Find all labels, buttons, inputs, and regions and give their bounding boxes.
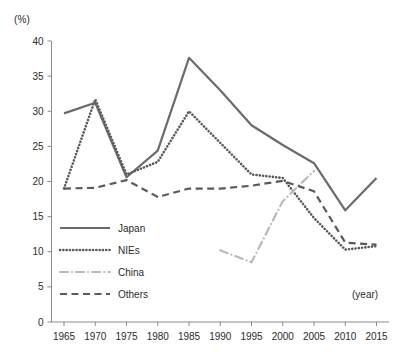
data-series-group	[64, 58, 377, 262]
y-axis-tick-label: 15	[32, 211, 44, 222]
legend-label-china: China	[118, 267, 145, 278]
legend-label-nies: NIEs	[118, 245, 140, 256]
x-axis: 1965197019751980198519901995200020052010…	[52, 322, 390, 342]
legend-label-japan: Japan	[118, 223, 145, 234]
y-axis-tick-label: 5	[38, 281, 44, 292]
y-axis-tick-label: 25	[32, 141, 44, 152]
y-axis-tick-label: 35	[32, 71, 44, 82]
y-axis-tick-label: 10	[32, 246, 44, 257]
chart-legend: JapanNIEsChinaOthers	[60, 223, 148, 300]
x-axis-tick-label: 1970	[84, 331, 107, 342]
series-line-others	[64, 180, 377, 245]
x-axis-tick-label: 1965	[53, 331, 76, 342]
x-axis-tick-label: 1975	[115, 331, 138, 342]
line-chart-plot: 0510152025303540 19651970197519801985199…	[0, 0, 406, 358]
y-axis: 0510152025303540	[32, 36, 51, 328]
series-line-china	[220, 171, 314, 262]
legend-label-others: Others	[118, 289, 148, 300]
x-axis-tick-label: 1995	[240, 331, 263, 342]
y-axis-tick-label: 20	[32, 176, 44, 187]
y-axis-tick-label: 40	[32, 36, 44, 47]
x-axis-tick-label: 2000	[272, 331, 295, 342]
chart-container: (%) (year) 0510152025303540 196519701975…	[0, 0, 406, 358]
series-line-nies	[64, 99, 377, 249]
x-axis-tick-label: 2010	[334, 331, 357, 342]
y-axis-tick-label: 30	[32, 106, 44, 117]
x-axis-tick-label: 2005	[303, 331, 326, 342]
y-axis-tick-label: 0	[38, 317, 44, 328]
x-axis-tick-label: 2015	[365, 331, 388, 342]
x-axis-tick-label: 1985	[178, 331, 201, 342]
x-axis-tick-label: 1990	[209, 331, 232, 342]
x-axis-tick-label: 1980	[147, 331, 170, 342]
